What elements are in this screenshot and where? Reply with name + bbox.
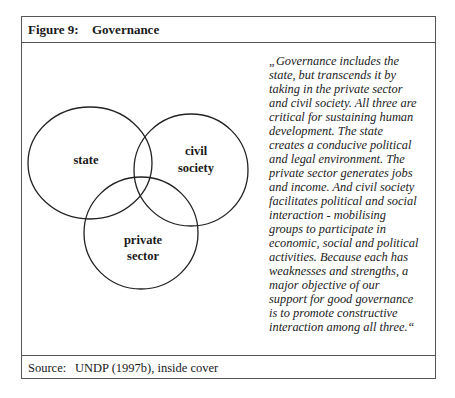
society-label: society <box>178 161 215 175</box>
source-row: Source: UNDP (1997b), inside cover <box>22 355 435 379</box>
governance-quote: „Governance includes the state, but tran… <box>269 54 434 334</box>
venn-diagram: state civil society private sector <box>1 1 261 321</box>
private-label: private <box>124 233 163 247</box>
source-text: UNDP (1997b), inside cover <box>75 361 218 376</box>
source-label: Source: <box>28 361 66 376</box>
figure-box: Figure 9: Governance state civil society… <box>21 16 436 379</box>
civil-label: civil <box>185 144 208 158</box>
sector-label: sector <box>127 249 159 263</box>
state-label: state <box>74 153 99 167</box>
